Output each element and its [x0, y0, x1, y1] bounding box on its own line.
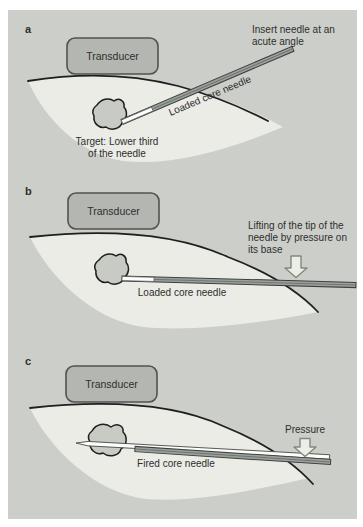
figure-artwork — [8, 10, 357, 519]
panel-label-b: b — [25, 185, 32, 197]
transducer-label-c: Transducer — [66, 366, 157, 402]
target-mass-a — [93, 99, 127, 129]
fired-core-needle-label: Fired core needle — [116, 458, 236, 470]
biopsy-technique-figure: a Transducer Insert needle at an acute a… — [8, 10, 357, 519]
loaded-core-needle-label-b: Loaded core needle — [122, 287, 242, 299]
transducer-label-b: Transducer — [68, 193, 159, 229]
panel-label-a: a — [25, 23, 31, 35]
pressure-arrow-icon-b — [285, 256, 307, 278]
pressure-annotation: Pressure — [265, 424, 345, 436]
target-mass-c — [88, 424, 126, 456]
target-annotation: Target: Lower third of the needle — [57, 136, 177, 160]
lifting-annotation: Lifting of the tip of the needle by pres… — [248, 220, 347, 256]
page: a Transducer Insert needle at an acute a… — [0, 0, 363, 527]
insert-needle-annotation: Insert needle at an acute angle — [252, 24, 335, 48]
panel-label-c: c — [25, 355, 31, 367]
transducer-label-a: Transducer — [67, 38, 158, 74]
